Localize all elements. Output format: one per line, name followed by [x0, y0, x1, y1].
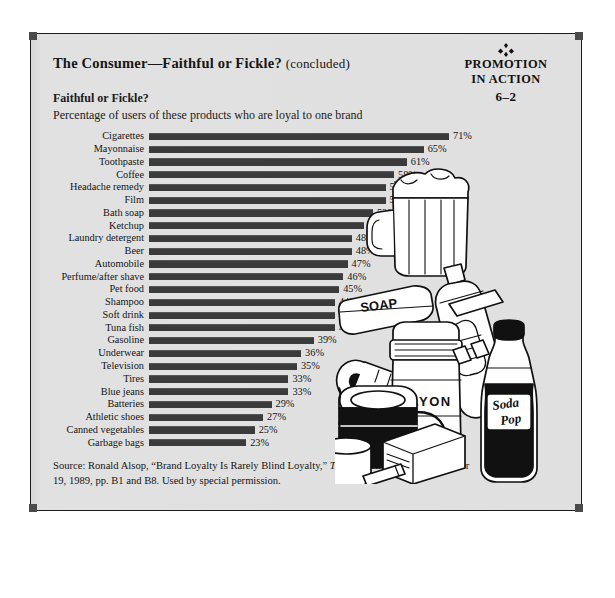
chart-row-label: Perfume/after shave — [31, 272, 149, 282]
chart-subtitle-heading: Faithful or Fickle? — [53, 91, 149, 106]
chart-row: Automobile47% — [31, 258, 581, 271]
chart-row-label: Soft drink — [31, 310, 149, 320]
chart-bar — [149, 235, 352, 242]
chart-row: Tuna fish44% — [31, 321, 581, 334]
chart-bar-wrap: 35% — [149, 360, 581, 373]
chart-bar-value: 51% — [368, 221, 387, 231]
chart-bar — [149, 401, 272, 408]
chart-bar — [149, 363, 297, 370]
chart-bar-wrap: 61% — [149, 156, 581, 169]
chart-bar-value: 61% — [411, 157, 430, 167]
chart-row: Blue jeans33% — [31, 385, 581, 398]
chart-bar-wrap: 27% — [149, 411, 581, 424]
chart-bar-value: 45% — [343, 284, 362, 294]
chart-bar-wrap: 39% — [149, 334, 581, 347]
chart-bar-value: 48% — [356, 246, 375, 256]
chart-bar-wrap: 71% — [149, 130, 581, 143]
chart-bar-value: 44% — [339, 297, 358, 307]
chart-bar-wrap: 48% — [149, 232, 581, 245]
chart-bar-value: 58% — [398, 170, 417, 180]
chart-row-label: Headache remedy — [31, 182, 149, 192]
chart-row-label: Batteries — [31, 399, 149, 409]
chart-row-label: Television — [31, 361, 149, 371]
chart-bar-wrap: 58% — [149, 168, 581, 181]
chart-bar-wrap: 29% — [149, 398, 581, 411]
chart-row-label: Pet food — [31, 284, 149, 294]
chart-bar — [149, 273, 343, 280]
chart-bar — [149, 209, 373, 216]
chart-bar-wrap: 45% — [149, 283, 581, 296]
chart-bar-value: 39% — [318, 335, 337, 345]
chart-bar-value: 44% — [339, 323, 358, 333]
chart-row: Canned vegetables25% — [31, 424, 581, 437]
chart-row-label: Canned vegetables — [31, 425, 149, 435]
chart-bar — [149, 426, 255, 433]
chart-row: Soft drink44% — [31, 309, 581, 322]
chart-bar-value: 33% — [292, 387, 311, 397]
chart-bar — [149, 299, 335, 306]
chart-row-label: Toothpaste — [31, 157, 149, 167]
chart-bar — [149, 312, 335, 319]
chart-row-label: Shampoo — [31, 297, 149, 307]
chart-row-label: Blue jeans — [31, 387, 149, 397]
exhibit-title-main: The Consumer—Faithful or Fickle? — [53, 55, 282, 71]
chart-bar — [149, 146, 424, 153]
exhibit-title-note: (concluded) — [286, 56, 350, 71]
source-line1-prefix: Source: Ronald Alsop, “Brand Loyalty Is … — [53, 460, 330, 471]
chart-bar-wrap: 44% — [149, 309, 581, 322]
chart-row: Athletic shoes27% — [31, 411, 581, 424]
chart-bar — [149, 350, 301, 357]
exhibit-page: The Consumer—Faithful or Fickle? (conclu… — [0, 0, 615, 598]
chart-bar-wrap: 65% — [149, 143, 581, 156]
chart-bar-wrap: 36% — [149, 347, 581, 360]
chart-subtitle-text: Percentage of users of these products wh… — [53, 108, 363, 123]
chart-bar-value: 23% — [250, 438, 269, 448]
chart-bar — [149, 222, 364, 229]
chart-row: Tires33% — [31, 373, 581, 386]
chart-row-label: Beer — [31, 246, 149, 256]
chart-row: Underwear36% — [31, 347, 581, 360]
chart-bar-wrap: 33% — [149, 373, 581, 386]
chart-row-label: Cigarettes — [31, 131, 149, 141]
chart-bar-wrap: 44% — [149, 321, 581, 334]
chart-bar — [149, 260, 348, 267]
chart-bar-value: 65% — [428, 144, 447, 154]
chart-row-label: Film — [31, 195, 149, 205]
chart-bar-value: 56% — [390, 195, 409, 205]
chart-bar — [149, 439, 246, 446]
chart-row: Perfume/after shave46% — [31, 270, 581, 283]
chart-row: Ketchup51% — [31, 219, 581, 232]
chart-row: Gasoline39% — [31, 334, 581, 347]
chart-bar-wrap: 56% — [149, 194, 581, 207]
corner-marker-bottom-left — [29, 504, 37, 512]
corner-marker-top-right — [575, 32, 583, 40]
chart-row: Television35% — [31, 360, 581, 373]
corner-marker-top-left — [29, 32, 37, 40]
chart-row: Laundry detergent48% — [31, 232, 581, 245]
chart-bar-value: 53% — [377, 208, 396, 218]
chart-row-label: Laundry detergent — [31, 233, 149, 243]
chart-row: Beer48% — [31, 245, 581, 258]
chart-bar — [149, 414, 263, 421]
chart-row-label: Athletic shoes — [31, 412, 149, 422]
chart-bar — [149, 324, 335, 331]
exhibit-title: The Consumer—Faithful or Fickle? (conclu… — [53, 55, 350, 72]
chart-bar — [149, 388, 288, 395]
chart-bar-value: 25% — [259, 425, 278, 435]
chart-bar-value: 44% — [339, 310, 358, 320]
loyalty-bar-chart: Cigarettes71%Mayonnaise65%Toothpaste61%C… — [31, 130, 581, 449]
chart-bar-wrap: 23% — [149, 436, 581, 449]
chart-row-label: Bath soap — [31, 208, 149, 218]
chart-bar-wrap: 47% — [149, 258, 581, 271]
chart-bar-value: 27% — [267, 412, 286, 422]
chart-row-label: Mayonnaise — [31, 144, 149, 154]
chart-row-label: Garbage bags — [31, 438, 149, 448]
chart-row: Coffee58% — [31, 168, 581, 181]
chart-bar — [149, 171, 394, 178]
badge-line-in-action: IN ACTION — [451, 72, 561, 87]
chart-row: Shampoo44% — [31, 296, 581, 309]
badge-number: 6–2 — [451, 89, 561, 105]
chart-row-label: Gasoline — [31, 335, 149, 345]
chart-row: Cigarettes71% — [31, 130, 581, 143]
chart-bar-wrap: 46% — [149, 270, 581, 283]
